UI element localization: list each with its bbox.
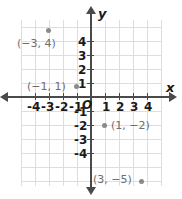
data-point[interactable] — [139, 179, 144, 184]
x-tick-label-neg3: -3 — [41, 101, 54, 113]
y-tick-label-neg2: -2 — [74, 120, 87, 132]
coordinate-plane-graph: -4 -3 -2 -1 1 2 3 4 4 3 2 1 -1 -2 -3 -4 … — [0, 0, 182, 199]
y-tick-label-3: 3 — [78, 50, 86, 62]
x-tick — [77, 93, 78, 100]
data-point-label: (1, −2) — [111, 120, 150, 131]
y-tick — [87, 55, 94, 56]
x-tick — [63, 93, 64, 100]
data-point-label: (−3, 4) — [17, 38, 56, 49]
x-tick — [35, 93, 36, 100]
data-point[interactable] — [46, 28, 51, 33]
y-tick — [87, 69, 94, 70]
y-tick — [87, 153, 94, 154]
data-point-label: (3, −5) — [93, 174, 132, 185]
x-tick-label-1: 1 — [102, 101, 110, 113]
y-tick — [87, 41, 94, 42]
grid-line-v — [161, 20, 162, 186]
data-point[interactable] — [74, 84, 79, 89]
x-tick-label-neg4: -4 — [27, 101, 40, 113]
y-axis-up-arrow-icon — [86, 6, 96, 14]
x-tick-label-neg2: -2 — [55, 101, 68, 113]
x-tick — [133, 93, 134, 100]
origin-label: O — [82, 99, 92, 111]
data-point-label: (−1, 1) — [27, 81, 66, 92]
y-axis-label: y — [98, 7, 106, 20]
x-tick-label-2: 2 — [116, 101, 124, 113]
y-tick-label-1: 1 — [78, 78, 86, 90]
y-tick-label-4: 4 — [78, 36, 86, 48]
y-tick-label-neg3: -3 — [74, 134, 87, 146]
y-tick-label-2: 2 — [78, 64, 86, 76]
x-axis-label: x — [166, 81, 174, 94]
x-axis-left-arrow-icon — [0, 92, 8, 102]
x-tick — [147, 93, 148, 100]
data-point[interactable] — [102, 123, 107, 128]
x-tick-label-4: 4 — [144, 101, 152, 113]
y-tick-label-neg4: -4 — [74, 148, 87, 160]
x-tick — [119, 93, 120, 100]
y-axis-down-arrow-icon — [86, 187, 96, 195]
y-tick — [87, 125, 94, 126]
x-tick — [105, 93, 106, 100]
x-tick-label-3: 3 — [130, 101, 138, 113]
x-tick — [49, 93, 50, 100]
y-tick — [87, 139, 94, 140]
y-tick — [87, 83, 94, 84]
